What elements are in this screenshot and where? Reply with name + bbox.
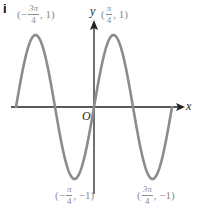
annotation-max-right: ( π4 , 1): [101, 4, 128, 25]
x-axis-label: x: [186, 99, 191, 114]
y-axis-label: y: [90, 4, 95, 19]
annotation-min-right: ( 3π4 , −1): [137, 185, 175, 206]
annotation-min-left: (− π4 , −1): [55, 185, 94, 206]
annotation-max-left: (− 3π4 , 1): [17, 4, 55, 25]
sine-graph: [0, 0, 198, 213]
origin-label: O: [82, 109, 91, 124]
